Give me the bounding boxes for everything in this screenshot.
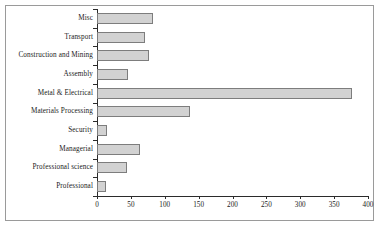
bar: [97, 162, 127, 173]
bar-chart-figure: MiscTransportConstruction and MiningAsse…: [0, 0, 379, 228]
y-axis-tick-mark: [93, 121, 97, 122]
y-axis-tick-mark: [93, 28, 97, 29]
y-axis-tick-mark: [93, 177, 97, 178]
x-axis-tick-mark: [334, 196, 335, 199]
x-axis-tick-label: 250: [252, 201, 280, 210]
x-axis-tick-mark: [266, 196, 267, 199]
y-axis-tick-label: Construction and Mining: [8, 51, 93, 60]
y-axis-tick-mark: [93, 103, 97, 104]
x-axis-tick-label: 400: [354, 201, 379, 210]
y-axis-tick-mark: [93, 9, 97, 10]
bar: [97, 181, 106, 192]
y-axis-category-labels: MiscTransportConstruction and MiningAsse…: [8, 9, 93, 196]
y-axis-tick-label: Transport: [8, 33, 93, 42]
x-axis-tick-mark: [300, 196, 301, 199]
y-axis-tick-label: Metal & Electrical: [8, 89, 93, 98]
bar: [97, 144, 140, 155]
x-axis-tick-mark: [97, 196, 98, 199]
y-axis-tick-mark: [93, 84, 97, 85]
x-axis-tick-label: 350: [320, 201, 348, 210]
y-axis-tick-label: Security: [8, 126, 93, 135]
y-axis-tick-mark: [93, 65, 97, 66]
x-axis-tick-label: 0: [83, 201, 111, 210]
x-axis-tick-label: 300: [286, 201, 314, 210]
bar: [97, 32, 145, 43]
x-axis-tick-mark: [131, 196, 132, 199]
y-axis-tick-mark: [93, 140, 97, 141]
x-axis-tick-mark: [199, 196, 200, 199]
y-axis-tick-mark: [93, 46, 97, 47]
bar: [97, 125, 107, 136]
x-axis-tick-mark: [233, 196, 234, 199]
y-axis-tick-label: Professional science: [8, 163, 93, 172]
x-axis-tick-mark: [165, 196, 166, 199]
x-axis-tick-label: 150: [185, 201, 213, 210]
y-axis-tick-label: Professional: [8, 182, 93, 191]
y-axis-tick-mark: [93, 196, 97, 197]
y-axis-tick-label: Misc: [8, 14, 93, 23]
bar: [97, 69, 128, 80]
x-axis-tick-mark: [368, 196, 369, 199]
y-axis-tick-mark: [93, 159, 97, 160]
x-axis-tick-label: 200: [219, 201, 247, 210]
bar: [97, 50, 149, 61]
y-axis-tick-label: Managerial: [8, 145, 93, 154]
y-axis-tick-label: Assembly: [8, 70, 93, 79]
bar: [97, 13, 153, 24]
bar: [97, 88, 352, 99]
x-axis-tick-label: 50: [117, 201, 145, 210]
bar: [97, 106, 190, 117]
y-axis-tick-label: Materials Processing: [8, 107, 93, 116]
x-axis-tick-label: 100: [151, 201, 179, 210]
